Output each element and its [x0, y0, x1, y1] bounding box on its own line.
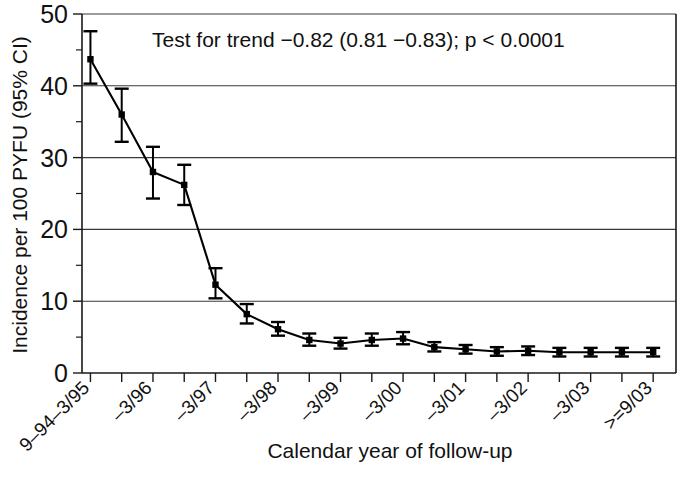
data-point-marker: [587, 349, 593, 355]
chart-background: [0, 0, 692, 483]
data-point-marker: [275, 326, 281, 332]
data-point-marker: [462, 346, 468, 352]
y-tick-label: 20: [40, 215, 68, 243]
y-tick-label: 50: [40, 0, 68, 28]
data-point-marker: [525, 348, 531, 354]
data-point-marker: [181, 182, 187, 188]
data-point-marker: [87, 56, 93, 62]
data-point-marker: [119, 111, 125, 117]
data-point-marker: [369, 337, 375, 343]
y-tick-label: 10: [40, 287, 68, 315]
x-axis-title: Calendar year of follow-up: [267, 439, 512, 462]
y-tick-label: 40: [40, 72, 68, 100]
data-point-marker: [619, 349, 625, 355]
trend-annotation: Test for trend −0.82 (0.81 −0.83); p < 0…: [152, 28, 565, 51]
y-tick-label: 0: [54, 359, 68, 387]
data-point-marker: [650, 349, 656, 355]
data-point-marker: [337, 340, 343, 346]
incidence-line-chart: 01020304050 9–94–3/95–3/96–3/97–3/98–3/9…: [0, 0, 692, 483]
data-point-marker: [244, 311, 250, 317]
y-tick-label: 30: [40, 144, 68, 172]
data-point-marker: [556, 349, 562, 355]
y-axis-title: Incidence per 100 PYFU (95% CI): [8, 36, 31, 353]
data-point-marker: [400, 335, 406, 341]
data-point-marker: [494, 348, 500, 354]
data-point-marker: [212, 281, 218, 287]
data-point-marker: [306, 337, 312, 343]
data-point-marker: [431, 344, 437, 350]
chart-figure: 01020304050 9–94–3/95–3/96–3/97–3/98–3/9…: [0, 0, 692, 483]
data-point-marker: [150, 169, 156, 175]
